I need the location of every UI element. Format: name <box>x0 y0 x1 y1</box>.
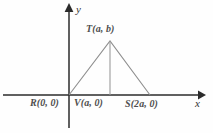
point-label-T: T(a, b) <box>86 24 114 34</box>
point-label-R: R(0, 0) <box>30 98 59 108</box>
point-label-V: V(a, 0) <box>74 98 103 108</box>
geometry-figure: y x T(a, b) R(0, 0) V(a, 0) S(2a, 0) <box>0 0 213 133</box>
y-axis-label: y <box>76 4 81 15</box>
figure-canvas <box>0 0 213 133</box>
y-axis-arrowhead-icon <box>65 3 74 12</box>
point-label-S: S(2a, 0) <box>125 99 158 109</box>
y-axis <box>65 3 74 128</box>
x-axis-label: x <box>195 98 200 109</box>
